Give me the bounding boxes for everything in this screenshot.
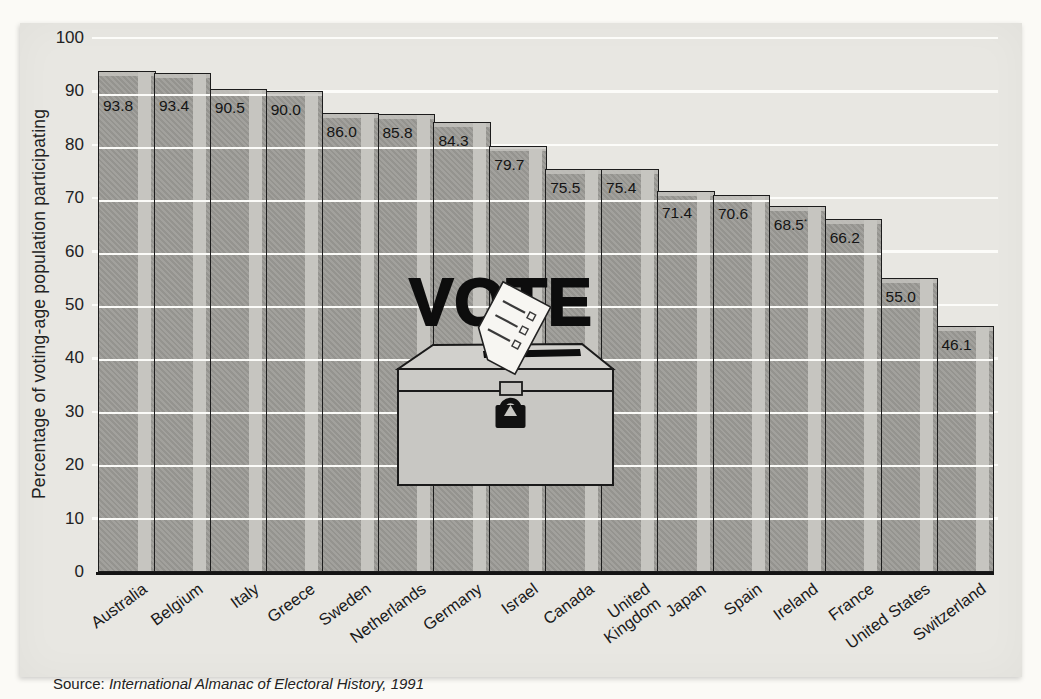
y-tick-50: 50 [24, 295, 84, 315]
y-tick-60: 60 [24, 242, 84, 262]
value-label-ireland: 68.5* [774, 216, 807, 234]
y-tick-90: 90 [24, 81, 84, 101]
y-tick-10: 10 [24, 509, 84, 529]
y-tick-70: 70 [24, 188, 84, 208]
value-label-japan: 71.4 [662, 204, 692, 222]
bar-sweden: 86.0 [322, 113, 380, 572]
y-tick-30: 30 [24, 402, 84, 422]
value-label-switzerland: 46.1 [942, 336, 972, 354]
value-label-spain: 70.6 [718, 205, 748, 223]
gridline-100 [92, 37, 998, 39]
bar-belgium: 93.4 [154, 73, 212, 572]
y-tick-80: 80 [24, 135, 84, 155]
x-axis-line [96, 572, 994, 575]
value-label-italy: 90.5 [215, 99, 245, 117]
ballot-box-hasp [500, 382, 522, 395]
bar-switzerland: 46.1 [937, 326, 995, 572]
y-tick-0: 0 [24, 562, 84, 582]
value-label-france: 66.2 [830, 229, 860, 247]
value-label-germany: 84.3 [438, 132, 468, 150]
chart-panel: Percentage of voting-age population part… [20, 23, 1022, 677]
scanned-page: { "colors": { "page_background": "#fbfaf… [0, 0, 1041, 699]
y-tick-100: 100 [24, 28, 84, 48]
bar-greece: 90.0 [266, 91, 324, 572]
bar-france: 66.2 [825, 219, 883, 573]
bar-spain: 70.6 [713, 195, 771, 572]
y-tick-20: 20 [24, 455, 84, 475]
value-label-israel: 79.7 [494, 156, 524, 174]
ballot-box-illustration [388, 265, 628, 493]
bar-japan: 71.4 [657, 191, 715, 572]
bar-ireland: 68.5* [769, 206, 827, 572]
bar-united-states: 55.0 [881, 278, 939, 572]
value-label-canada: 75.5 [550, 179, 580, 197]
source-citation: International Almanac of Electoral Histo… [109, 675, 424, 692]
value-label-united-kingdom: 75.4 [606, 179, 636, 197]
value-label-sweden: 86.0 [327, 123, 357, 141]
source-prefix: Source: [53, 675, 109, 692]
value-label-belgium: 93.4 [159, 97, 189, 115]
value-label-netherlands: 85.8 [383, 124, 413, 142]
value-label-australia: 93.8 [103, 97, 133, 115]
value-label-united-states: 55.0 [886, 288, 916, 306]
source-note: Source: International Almanac of Elector… [53, 675, 424, 692]
y-tick-40: 40 [24, 348, 84, 368]
bar-italy: 90.5 [210, 89, 268, 572]
bar-australia: 93.8 [98, 71, 156, 572]
value-label-greece: 90.0 [271, 101, 301, 119]
